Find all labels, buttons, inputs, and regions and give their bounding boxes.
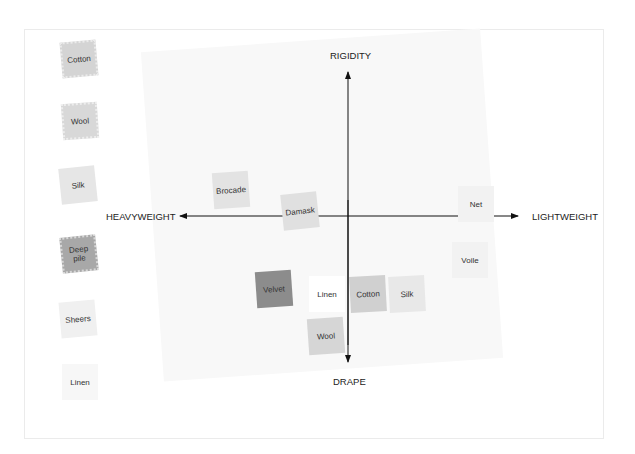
axis-label-lightweight: LIGHTWEIGHT (532, 211, 598, 222)
fabric-swatch: Linen (309, 276, 345, 312)
swatch-label: Wool (71, 116, 90, 126)
swatch-label: Velvet (263, 284, 285, 294)
fabric-swatch: Velvet (255, 270, 293, 308)
legend-swatch: Cotton (59, 39, 98, 78)
swatch-label: Wool (317, 331, 336, 341)
swatch-label: Silk (71, 180, 85, 190)
swatch-label: Damask (285, 205, 315, 217)
fabric-swatch: Damask (280, 191, 320, 231)
swatch-label: Cotton (356, 289, 380, 299)
swatch-label: Silk (400, 289, 413, 299)
fabric-swatch: Net (458, 186, 494, 222)
swatch-label: Cotton (67, 53, 91, 64)
legend-swatch: Sheers (58, 299, 97, 338)
swatch-label: Linen (70, 378, 90, 387)
legend-swatch: Wool (61, 102, 99, 140)
fabric-swatch: Voile (452, 242, 488, 278)
swatch-label: Net (470, 200, 482, 209)
legend-swatch: Deep pile (59, 234, 99, 274)
legend-swatch: Linen (62, 364, 98, 400)
fabric-swatch: Cotton (349, 275, 387, 313)
swatch-label: Voile (461, 256, 478, 265)
fabric-swatch: Silk (388, 275, 426, 313)
swatch-label: Sheers (65, 313, 91, 324)
swatch-label: Deep pile (62, 243, 96, 264)
swatch-label: Brocade (216, 184, 246, 195)
axis-label-rigidity: RIGIDITY (330, 50, 371, 61)
axis-label-drape: DRAPE (333, 376, 366, 387)
fabric-swatch: Brocade (212, 171, 250, 209)
swatch-label: Linen (317, 290, 337, 299)
axis-label-heavyweight: HEAVYWEIGHT (106, 211, 176, 222)
fabric-swatch: Wool (307, 317, 345, 355)
legend-swatch: Silk (58, 165, 98, 205)
